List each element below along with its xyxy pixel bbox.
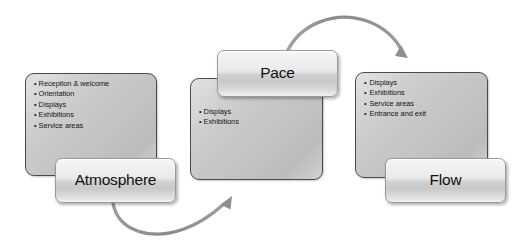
stage-label-pace[interactable]: Pace bbox=[217, 50, 338, 97]
list-item: Exhibitions bbox=[34, 110, 149, 120]
stage-label-atmosphere[interactable]: Atmosphere bbox=[55, 158, 176, 203]
list-item: Displays bbox=[364, 78, 480, 88]
list-item: Entrance and exit bbox=[364, 109, 480, 119]
stage-label-text: Flow bbox=[430, 172, 462, 189]
list-item: Service areas bbox=[364, 99, 480, 109]
diagram-canvas: Reception & welcome Orientation Displays… bbox=[0, 0, 523, 247]
stage-item-list: Displays Exhibitions Service areas Entra… bbox=[364, 78, 480, 120]
list-item: Orientation bbox=[34, 89, 149, 99]
list-item: Service areas bbox=[34, 121, 149, 131]
list-item: Exhibitions bbox=[199, 117, 315, 127]
list-item: Displays bbox=[199, 107, 315, 117]
stage-label-flow[interactable]: Flow bbox=[385, 158, 506, 203]
stage-item-list: Reception & welcome Orientation Displays… bbox=[34, 79, 149, 131]
list-item: Displays bbox=[34, 100, 149, 110]
stage-label-text: Atmosphere bbox=[75, 172, 157, 189]
list-item: Exhibitions bbox=[364, 88, 480, 98]
stage-label-text: Pace bbox=[260, 65, 295, 82]
list-item: Reception & welcome bbox=[34, 79, 149, 89]
